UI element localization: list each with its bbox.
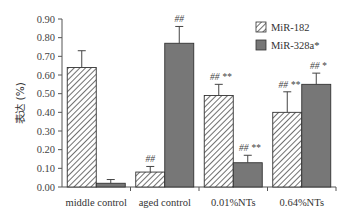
legend: MiR-182MiR-328a* bbox=[256, 22, 319, 51]
x-category-label: middle control bbox=[65, 197, 127, 208]
y-axis-label: 表达 (%) bbox=[14, 82, 26, 124]
y-tick-label: 0.50 bbox=[37, 88, 55, 99]
significance-marker: ## bbox=[146, 154, 156, 164]
bar-mir-182 bbox=[273, 112, 302, 187]
bar-group: middle control bbox=[65, 51, 127, 208]
y-tick-label: 0.30 bbox=[37, 126, 55, 137]
x-category-label: 0.64%NTs bbox=[280, 197, 324, 208]
significance-marker: ## ** bbox=[279, 80, 301, 90]
significance-marker: ## ** bbox=[239, 143, 261, 153]
bar-chart: 表达 (%) 0.000.100.200.300.400.500.600.700… bbox=[0, 0, 344, 220]
y-tick-label: 0.80 bbox=[37, 32, 55, 43]
y-axis-title: 表达 (%) bbox=[14, 82, 26, 124]
y-tick-label: 0.90 bbox=[37, 14, 55, 25]
x-category-label: 0.01%NTs bbox=[211, 197, 255, 208]
bar-group: ## **## *0.64%NTs bbox=[273, 61, 331, 208]
bar-mir-328a bbox=[96, 183, 125, 187]
y-tick-label: 0.00 bbox=[37, 182, 55, 193]
x-category-label: aged control bbox=[139, 197, 191, 208]
legend-swatch-hatched bbox=[256, 22, 266, 32]
bar-mir-328a bbox=[302, 84, 331, 187]
legend-label: MiR-328a* bbox=[271, 40, 319, 51]
significance-marker: ## bbox=[175, 14, 185, 24]
bar-mir-182 bbox=[67, 68, 96, 187]
y-tick-label: 0.20 bbox=[37, 144, 55, 155]
y-tick-label: 0.60 bbox=[37, 70, 55, 81]
significance-marker: ## * bbox=[310, 61, 327, 71]
legend-swatch-solid bbox=[256, 40, 266, 50]
y-tick-label: 0.10 bbox=[37, 163, 55, 174]
bar-mir-182 bbox=[136, 172, 165, 187]
legend-label: MiR-182 bbox=[271, 22, 310, 33]
bar-group: ## **## **0.01%NTs bbox=[204, 72, 262, 208]
bar-mir-328a bbox=[165, 43, 194, 187]
bar-mir-328a bbox=[233, 163, 262, 187]
significance-marker: ## ** bbox=[210, 72, 232, 82]
y-tick-label: 0.70 bbox=[37, 51, 55, 62]
y-tick-label: 0.40 bbox=[37, 107, 55, 118]
bar-mir-182 bbox=[204, 96, 233, 187]
bar-group: ####aged control bbox=[136, 14, 194, 208]
